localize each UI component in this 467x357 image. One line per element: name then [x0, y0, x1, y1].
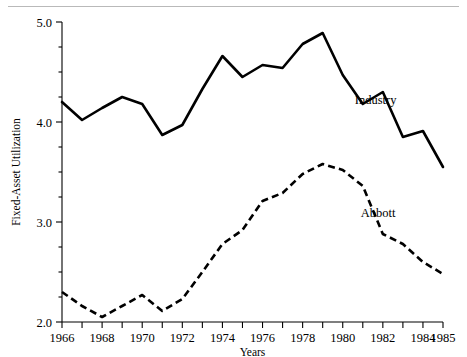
y-axis-tick-label: 3.0 — [36, 216, 52, 230]
line-chart-plot: 2.03.04.05.01966196819701972197419761978… — [0, 0, 467, 357]
x-axis-tick-label: 1970 — [130, 331, 155, 345]
y-axis-title: Fixed-Asset Utilization — [10, 118, 22, 226]
x-axis-tick-label: 1978 — [290, 331, 315, 345]
series-line-abbott — [62, 164, 443, 317]
series-label-abbott: Abbott — [361, 206, 396, 220]
x-axis-tick-label: 1974 — [210, 331, 236, 345]
y-axis-tick-label: 2.0 — [36, 316, 52, 330]
x-axis-tick-label: 1982 — [370, 331, 395, 345]
y-axis-tick-label: 4.0 — [36, 116, 52, 130]
x-axis-title: Years — [240, 346, 266, 357]
chart-figure: 2.03.04.05.01966196819701972197419761978… — [0, 0, 467, 357]
x-axis-tick-label: 1966 — [50, 331, 75, 345]
x-axis-tick-label: 1976 — [250, 331, 275, 345]
x-axis-tick-label: 1980 — [330, 331, 355, 345]
x-axis-tick-label: 1968 — [90, 331, 115, 345]
y-axis-tick-label: 5.0 — [36, 16, 52, 30]
x-axis-tick-label: 1972 — [170, 331, 195, 345]
x-axis-tick-label: 1985 — [431, 331, 456, 345]
series-label-industry: Industry — [355, 93, 397, 107]
